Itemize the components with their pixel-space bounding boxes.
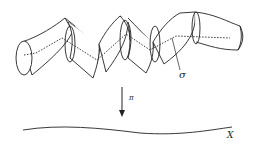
base-label: X <box>227 130 233 140</box>
projection-label: π <box>129 94 134 102</box>
fiber-bundle-diagram <box>0 0 257 148</box>
section-label: σ <box>179 69 186 80</box>
base-curve <box>23 127 232 134</box>
arrowhead-icon <box>119 110 125 117</box>
